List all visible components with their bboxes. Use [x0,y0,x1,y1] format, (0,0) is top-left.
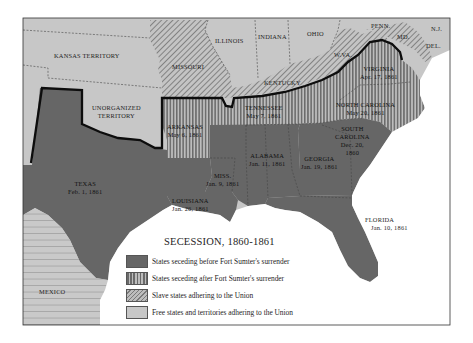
mississippi-name: MISS. [206,172,239,180]
legend-label: Slave states adhering to the Union [152,291,253,300]
label-md: MD. [397,33,410,41]
south-carolina-date: Dec. 20, [335,141,370,149]
arkansas-name: ARKANSAS [167,123,203,131]
legend-swatch-diagonal-hatch [126,289,148,302]
north-carolina-name: NORTH CAROLINA [336,101,395,109]
label-south-carolina: SOUTHCAROLINADec. 20,1860 [335,125,370,157]
legend-item-free: Free states and territories adhering to … [126,305,293,320]
texas-date: Feb. 1, 1861 [68,188,102,196]
mississippi-date: Jan. 9, 1861 [206,180,239,188]
legend-swatch-solid [126,255,148,268]
label-kentucky: KENTUCKY [264,79,301,87]
label-indiana: INDIANA [258,33,287,41]
label-north-carolina: NORTH CAROLINAMay 20, 1861 [336,101,395,117]
label-virginia: VIRGINIAApr. 17, 1861 [360,65,398,81]
alabama-date: Jan. 11, 1861 [249,160,285,168]
legend-swatch-vertical-stripes [126,272,148,285]
label-illinois: ILLINOIS [215,37,244,45]
south-carolina-name: SOUTH [335,125,370,133]
florida-name: FLORIDA [365,216,408,224]
south-carolina-name2: CAROLINA [335,133,370,141]
label-wva: W.VA. [334,51,352,59]
legend-swatch-light [126,306,148,319]
florida-date: Jan. 10, 1861 [365,224,408,232]
label-unorganized: UNORGANIZED [92,104,141,112]
label-arkansas: ARKANSASMay 6, 1861 [167,123,203,139]
label-texas: TEXASFeb. 1, 1861 [68,180,102,196]
alabama-name: ALABAMA [249,152,285,160]
north-carolina-date: May 20, 1861 [336,109,395,117]
label-alabama: ALABAMAJan. 11, 1861 [249,152,285,168]
label-territory: TERRITORY [92,112,141,120]
georgia-name: GEORGIA [301,155,338,163]
legend-item-seceded-after: States seceding after Fort Sumter's surr… [126,271,284,286]
tennessee-name: TENNESSEE [245,104,283,112]
georgia-date: Jan. 19, 1861 [301,163,338,171]
label-tennessee: TENNESSEEMay 7, 1861 [245,104,283,120]
label-georgia: GEORGIAJan. 19, 1861 [301,155,338,171]
texas-name: TEXAS [68,180,102,188]
label-unorganized-territory: UNORGANIZEDTERRITORY [92,104,141,120]
label-florida: FLORIDAJan. 10, 1861 [365,216,408,232]
label-louisiana: LOUISIANAJan. 26, 1861 [172,197,209,213]
tennessee-date: May 7, 1861 [245,112,283,120]
label-del: DEL. [426,42,441,50]
virginia-name: VIRGINIA [360,65,398,73]
label-kansas-territory: KANSAS TERRITORY [54,52,120,60]
label-ohio: OHIO [307,30,324,38]
arkansas-date: May 6, 1861 [167,131,203,139]
south-carolina-date2: 1860 [335,149,370,157]
louisiana-name: LOUISIANA [172,197,209,205]
legend-label: States seceding after Fort Sumter's surr… [152,274,284,283]
label-mississippi: MISS.Jan. 9, 1861 [206,172,239,188]
map-title: SECESSION, 1860-1861 [164,236,275,247]
label-nj: N.J. [431,25,442,33]
label-missouri: MISSOURI [172,63,204,71]
label-penn: PENN. [371,22,390,30]
louisiana-date: Jan. 26, 1861 [172,205,209,213]
legend-item-slave-union: Slave states adhering to the Union [126,288,253,303]
legend-label: Free states and territories adhering to … [152,308,293,317]
legend-label: States seceding before Fort Sumter's sur… [152,257,289,266]
legend-item-seceded-before: States seceding before Fort Sumter's sur… [126,254,289,269]
virginia-date: Apr. 17, 1861 [360,73,398,81]
label-mexico: MEXICO [39,288,65,296]
